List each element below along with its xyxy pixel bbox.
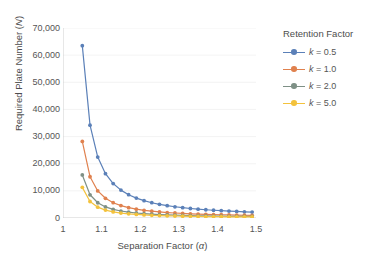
data-point-marker xyxy=(243,210,247,214)
data-point-marker xyxy=(188,207,192,211)
data-point-marker xyxy=(204,208,208,212)
data-series xyxy=(80,44,254,214)
chart-figure: Required Plate Number (N) Separation Fac… xyxy=(0,0,371,258)
data-point-marker xyxy=(219,209,223,213)
data-point-marker xyxy=(88,123,92,127)
data-point-marker xyxy=(127,193,131,197)
data-point-marker xyxy=(88,193,92,197)
data-point-marker xyxy=(165,204,169,208)
legend-swatch xyxy=(283,47,305,57)
data-point-marker xyxy=(127,206,131,210)
data-point-marker xyxy=(134,213,138,217)
data-point-marker xyxy=(80,173,84,177)
legend-item[interactable]: k = 5.0 xyxy=(283,95,369,112)
data-point-marker xyxy=(150,201,154,205)
x-tick-label: 1 xyxy=(43,224,83,234)
legend-swatch xyxy=(283,81,305,91)
series-line xyxy=(82,46,252,212)
legend: Retention Factor k = 0.5k = 1.0k = 2.0k … xyxy=(283,28,369,112)
data-point-marker xyxy=(119,188,123,192)
data-point-marker xyxy=(111,201,115,205)
legend-label: k = 2.0 xyxy=(309,81,336,91)
x-tick-label: 1.1 xyxy=(82,224,122,234)
data-point-marker xyxy=(250,210,254,214)
data-point-marker xyxy=(104,172,108,176)
legend-title: Retention Factor xyxy=(283,28,369,40)
data-point-marker xyxy=(142,213,146,217)
x-tick-label: 1.4 xyxy=(197,224,237,234)
data-point-marker xyxy=(181,214,185,218)
data-point-marker xyxy=(96,205,100,209)
data-point-marker xyxy=(96,155,100,159)
data-point-marker xyxy=(80,44,84,48)
legend-label: k = 0.5 xyxy=(309,47,336,57)
plot-svg xyxy=(63,28,256,218)
data-point-marker xyxy=(96,189,100,193)
x-tick-label: 1.3 xyxy=(159,224,199,234)
data-point-marker xyxy=(88,175,92,179)
data-point-marker xyxy=(80,185,84,189)
data-point-marker xyxy=(235,210,239,214)
legend-label: k = 5.0 xyxy=(309,98,336,108)
x-tick-label: 1.5 xyxy=(236,224,276,234)
legend-label: k = 1.0 xyxy=(309,64,336,74)
legend-item[interactable]: k = 1.0 xyxy=(283,61,369,78)
gridlines xyxy=(63,28,256,218)
data-point-marker xyxy=(80,139,84,143)
data-point-marker xyxy=(111,182,115,186)
data-point-marker xyxy=(134,207,138,211)
plot-area xyxy=(63,28,256,218)
data-point-marker xyxy=(119,204,123,208)
data-point-marker xyxy=(158,202,162,206)
data-point-marker xyxy=(134,196,138,200)
data-point-marker xyxy=(158,214,162,218)
legend-item[interactable]: k = 2.0 xyxy=(283,78,369,95)
data-point-marker xyxy=(119,211,123,215)
data-point-marker xyxy=(196,207,200,211)
data-point-marker xyxy=(88,200,92,204)
x-tick-label: 1.2 xyxy=(120,224,160,234)
data-point-marker xyxy=(150,213,154,217)
data-point-marker xyxy=(173,214,177,218)
data-point-marker xyxy=(227,209,231,213)
legend-swatch xyxy=(283,98,305,108)
legend-item[interactable]: k = 0.5 xyxy=(283,44,369,61)
data-point-marker xyxy=(181,206,185,210)
data-point-marker xyxy=(173,205,177,209)
data-point-marker xyxy=(104,208,108,212)
data-point-marker xyxy=(104,196,108,200)
data-point-marker xyxy=(165,214,169,218)
legend-swatch xyxy=(283,64,305,74)
data-point-marker xyxy=(127,212,131,216)
data-point-marker xyxy=(142,208,146,212)
data-point-marker xyxy=(142,199,146,203)
data-point-marker xyxy=(96,201,100,205)
data-point-marker xyxy=(212,208,216,212)
data-series-layer xyxy=(80,44,254,218)
data-point-marker xyxy=(111,210,115,214)
legend-items: k = 0.5k = 1.0k = 2.0k = 5.0 xyxy=(283,44,369,112)
